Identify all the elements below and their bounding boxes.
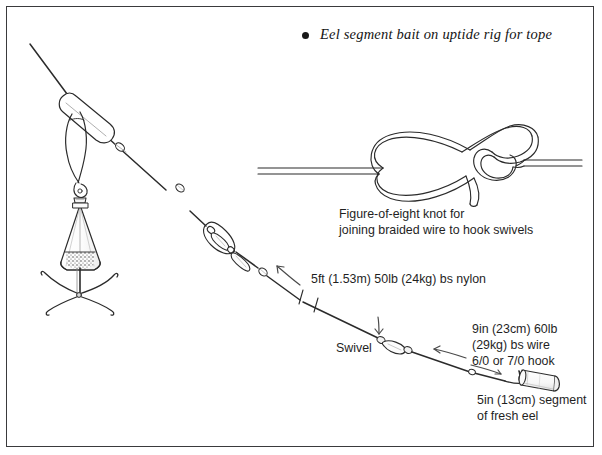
wire-hook-spec-label: 9in (23cm) 60lb (29kg) bs wire 6/0 or 7/… <box>472 322 557 370</box>
eel-segment-label: 5in (13cm) segment of fresh eel <box>477 393 587 425</box>
swivel-label: Swivel <box>336 341 372 357</box>
knot-caption-label: Figure-of-eight knot for joining braided… <box>339 207 533 239</box>
figure-canvas: Eel segment bait on uptide rig for tope <box>0 0 602 455</box>
nylon-spec-label: 5ft (1.53m) 50lb (24kg) bs nylon <box>311 272 486 288</box>
arrow-to-nylon <box>277 266 300 285</box>
arrow-to-wire <box>434 346 466 358</box>
arrow-to-swivel <box>375 317 383 334</box>
